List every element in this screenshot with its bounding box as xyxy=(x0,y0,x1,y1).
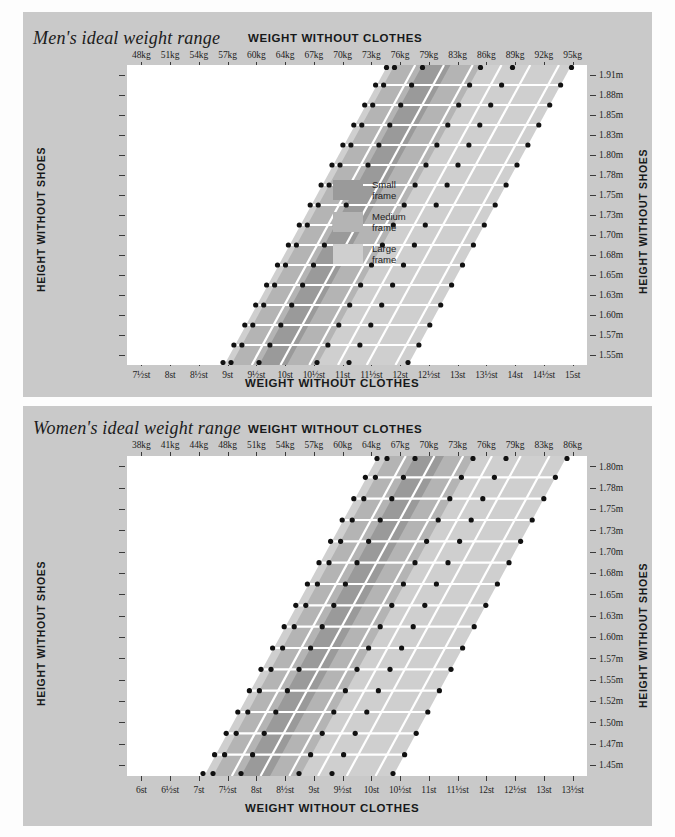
band-boundary-dot xyxy=(338,539,343,544)
band-boundary-dot xyxy=(245,709,250,714)
womens-right-tick-mark xyxy=(590,616,596,617)
band-boundary-dot xyxy=(492,475,497,480)
mens-right-tick-label: 1.83m xyxy=(599,130,623,140)
band-boundary-dot xyxy=(455,162,460,167)
womens-top-axis-title: WEIGHT WITHOUT CLOTHES xyxy=(248,423,422,435)
mens-right-tick-mark xyxy=(590,175,596,176)
mens-right-tick-mark xyxy=(590,255,596,256)
band-boundary-dot xyxy=(353,731,358,736)
band-boundary-dot xyxy=(351,496,356,501)
mens-right-tick-mark xyxy=(590,235,596,236)
band-boundary-dot xyxy=(422,603,427,608)
womens-top-tick-label: 86kg xyxy=(563,440,582,450)
band-boundary-dot xyxy=(253,302,258,307)
womens-bottom-tick-label: 10½st xyxy=(389,785,411,795)
band-boundary-dot xyxy=(283,262,288,267)
band-boundary-dot xyxy=(303,603,308,608)
womens-bottom-tick-label: 6st xyxy=(136,785,147,795)
womens-right-tick-label: 1.45m xyxy=(599,760,623,770)
band-boundary-dot xyxy=(370,102,375,107)
band-boundary-dot xyxy=(384,65,389,70)
womens-right-tick-mark xyxy=(590,701,596,702)
legend-item-large: Large frame xyxy=(333,244,396,265)
band-boundary-dot xyxy=(381,82,386,87)
band-boundary-dot xyxy=(460,262,465,267)
band-boundary-dot xyxy=(460,645,465,650)
band-boundary-dot xyxy=(329,162,334,167)
mens-right-tick-mark xyxy=(590,275,596,276)
band-boundary-dot xyxy=(434,142,439,147)
mens-bottom-tick-label: 13st xyxy=(450,370,465,380)
band-boundary-dot xyxy=(340,142,345,147)
mens-right-tick-mark xyxy=(590,215,596,216)
womens-bottom-tick-label: 9st xyxy=(308,785,319,795)
legend-swatch-small xyxy=(333,180,363,200)
band-boundary-dot xyxy=(294,242,299,247)
womens-bottom-tick-label: 9½st xyxy=(334,785,352,795)
mens-top-tick-label: 83kg xyxy=(448,50,467,60)
band-boundary-dot xyxy=(401,262,406,267)
band-boundary-dot xyxy=(423,162,428,167)
band-boundary-dot xyxy=(420,65,425,70)
band-boundary-dot xyxy=(363,475,368,480)
womens-bottom-tick-label: 12½st xyxy=(504,785,526,795)
band-boundary-dot xyxy=(247,688,252,693)
band-boundary-dot xyxy=(300,282,305,287)
band-boundary-dot xyxy=(425,709,430,714)
legend-swatch-medium xyxy=(333,212,363,232)
womens-left-tick-mark xyxy=(119,488,125,489)
band-boundary-dot xyxy=(412,456,417,461)
womens-top-tick-label: 44kg xyxy=(190,440,209,450)
mens-top-tick-label: 76kg xyxy=(391,50,410,60)
band-boundary-dot xyxy=(308,202,313,207)
band-boundary-dot xyxy=(336,322,341,327)
womens-band-graphic xyxy=(127,456,587,776)
mens-top-tick-label: 54kg xyxy=(190,50,209,60)
band-boundary-dot xyxy=(376,142,381,147)
womens-right-tick-label: 1.75m xyxy=(599,504,623,514)
womens-right-tick-label: 1.52m xyxy=(599,696,623,706)
womens-bottom-tick-label: 10st xyxy=(364,785,379,795)
band-boundary-dot xyxy=(423,222,428,227)
band-boundary-dot xyxy=(296,667,301,672)
band-boundary-dot xyxy=(285,688,290,693)
womens-left-tick-mark xyxy=(119,552,125,553)
band-boundary-dot xyxy=(250,752,255,757)
womens-bottom-tick-label: 7½st xyxy=(219,785,237,795)
band-boundary-dot xyxy=(231,342,236,347)
legend-swatch-large xyxy=(333,244,363,264)
mens-bottom-tick-label: 9st xyxy=(222,370,233,380)
womens-right-tick-label: 1.63m xyxy=(599,611,623,621)
mens-right-tick-label: 1.63m xyxy=(599,290,623,300)
band-boundary-dot xyxy=(327,182,332,187)
mens-bottom-tick-label: 15st xyxy=(565,370,580,380)
womens-right-tick-mark xyxy=(590,680,596,681)
band-boundary-dot xyxy=(257,688,262,693)
womens-right-tick-mark xyxy=(590,466,596,467)
mens-top-tick-label: 60kg xyxy=(247,50,266,60)
band-boundary-dot xyxy=(319,182,324,187)
band-boundary-dot xyxy=(228,360,233,365)
mens-right-tick-label: 1.68m xyxy=(599,250,623,260)
band-boundary-dot xyxy=(405,360,410,365)
womens-bottom-tick-label: 8st xyxy=(251,785,262,795)
legend-label-small: Small frame xyxy=(372,180,396,201)
womens-left-tick-mark xyxy=(119,680,125,681)
band-boundary-dot xyxy=(547,102,552,107)
womens-top-tick-label: 41kg xyxy=(161,440,180,450)
band-boundary-dot xyxy=(354,560,359,565)
band-boundary-dot xyxy=(200,771,205,776)
womens-right-tick-label: 1.78m xyxy=(599,483,623,493)
band-boundary-dot xyxy=(470,456,475,461)
band-boundary-dot xyxy=(278,322,283,327)
band-boundary-dot xyxy=(347,302,352,307)
womens-top-tick-label: 73kg xyxy=(448,440,467,450)
legend-label-large: Large frame xyxy=(372,244,396,265)
band-boundary-dot xyxy=(412,242,417,247)
band-boundary-dot xyxy=(373,82,378,87)
womens-bottom-tick-label: 13st xyxy=(536,785,551,795)
womens-right-tick-mark xyxy=(590,658,596,659)
mens-bottom-tick-label: 10½st xyxy=(303,370,325,380)
womens-plot-area xyxy=(127,456,587,776)
womens-right-axis-title: HEIGHT WITHOUT SHOES xyxy=(637,563,649,708)
